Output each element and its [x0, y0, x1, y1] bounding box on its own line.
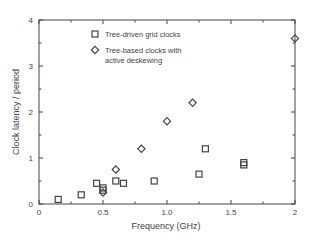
- x-tick-label: 0: [37, 208, 42, 217]
- legend-square-icon: [92, 31, 98, 37]
- y-tick-label: 2: [29, 108, 34, 117]
- x-tick-label: 0.5: [97, 208, 109, 217]
- x-tick-label: 1.0: [161, 208, 173, 217]
- legend: Tree-driven grid clocksTree-based clocks…: [91, 30, 181, 65]
- square-marker-icon: [241, 160, 247, 166]
- square-marker-icon: [241, 162, 247, 168]
- square-marker-icon: [113, 178, 119, 184]
- legend-label-deskew-line2: active deskewing: [105, 56, 162, 65]
- square-marker-icon: [196, 171, 202, 177]
- square-marker-icon: [120, 180, 126, 186]
- data-points: [55, 35, 298, 203]
- y-tick-label: 3: [29, 62, 34, 71]
- x-tick-label: 2: [293, 208, 298, 217]
- diamond-marker-icon: [189, 99, 196, 106]
- x-axis-label: Frequency (GHz): [131, 221, 200, 231]
- y-tick-label: 0: [29, 200, 34, 209]
- legend-diamond-icon: [91, 46, 98, 53]
- diamond-marker-icon: [138, 145, 145, 152]
- square-marker-icon: [202, 146, 208, 152]
- y-tick-label: 1: [29, 154, 34, 163]
- square-marker-icon: [151, 178, 157, 184]
- x-tick-label: 1.5: [225, 208, 237, 217]
- square-marker-icon: [78, 192, 84, 198]
- diamond-marker-icon: [163, 118, 170, 125]
- square-marker-icon: [94, 180, 100, 186]
- y-axis-label: Clock latency / period: [11, 69, 21, 155]
- square-marker-icon: [100, 185, 106, 191]
- legend-label-grid: Tree-driven grid clocks: [105, 30, 181, 39]
- y-tick-label: 4: [29, 16, 34, 25]
- diamond-marker-icon: [112, 166, 119, 173]
- scatter-chart: 00.51.01.5201234 Tree-driven grid clocks…: [0, 0, 311, 244]
- square-marker-icon: [55, 196, 61, 202]
- series-square: [55, 146, 247, 203]
- legend-label-deskew-line1: Tree-based clocks with: [105, 46, 181, 55]
- chart-svg: 00.51.01.5201234 Tree-driven grid clocks…: [0, 0, 311, 244]
